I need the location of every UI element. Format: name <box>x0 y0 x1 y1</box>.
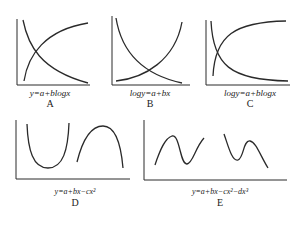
label-b: B <box>110 99 190 109</box>
chart-c-curves <box>200 0 300 90</box>
panel-a: y=a+blogx A <box>0 0 100 110</box>
panel-c: logy=a+blogx C <box>200 0 300 110</box>
equation-e: y=a+bx−cx²−dx³ <box>160 187 280 197</box>
chart-a-curves <box>0 0 100 90</box>
panel-b: logy=a+bx B <box>100 0 200 110</box>
label-a: A <box>10 99 90 109</box>
chart-e-curves <box>140 110 300 185</box>
label-d: D <box>25 198 125 208</box>
panel-d: y=a+bx−cx² D <box>0 110 140 227</box>
chart-b-curves <box>100 0 200 90</box>
label-c: C <box>205 99 295 109</box>
panel-e: y=a+bx−cx²−dx³ E <box>140 110 300 227</box>
label-e: E <box>160 198 280 208</box>
equation-c: logy=a+blogx <box>205 88 295 98</box>
equation-d: y=a+bx−cx² <box>25 187 125 197</box>
chart-d-curves <box>0 110 140 185</box>
equation-b: logy=a+bx <box>110 88 190 98</box>
equation-a: y=a+blogx <box>10 88 90 98</box>
